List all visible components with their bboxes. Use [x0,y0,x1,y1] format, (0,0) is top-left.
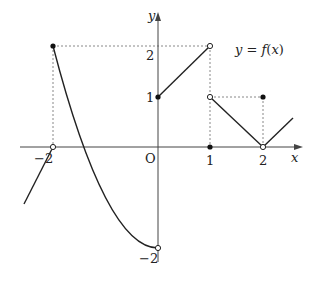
open-point [260,144,265,149]
y-tick-label: −2 [139,251,158,266]
x-axis-label: x [291,150,299,165]
open-point [207,43,212,48]
y-axis-label: y [147,8,156,23]
open-point [50,144,55,149]
closed-point [50,43,55,48]
falling-segment [210,97,263,147]
closed-point [155,94,160,99]
closed-point [260,94,265,99]
x-tick-label: 2 [259,153,267,168]
function-label: y = f(x) [234,42,284,57]
x-tick-label: 1 [206,153,214,168]
rising-segment [158,46,210,97]
open-point [207,94,212,99]
y-tick-label: 1 [146,90,154,105]
origin-label: O [145,151,156,166]
x-tick-label: −2 [34,151,53,166]
y-tick-label: 2 [146,48,154,63]
right-line-segment [263,118,293,147]
closed-point [207,144,212,149]
function-graph: y x O −2 1 2 2 1 −2 y = f(x) [0,0,309,288]
open-point [155,245,160,250]
y-axis-arrow-icon [155,12,161,21]
